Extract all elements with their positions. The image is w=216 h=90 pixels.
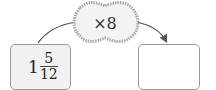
operator-label: × 8 — [72, 4, 138, 42]
fraction: 5 12 — [40, 51, 58, 82]
denominator: 12 — [40, 67, 58, 82]
operator-value: 8 — [107, 14, 117, 33]
answer-box[interactable] — [138, 44, 200, 90]
arrow-out — [136, 22, 166, 41]
mixed-number: 1 5 12 — [28, 51, 58, 82]
arc-in — [38, 22, 76, 43]
numerator: 5 — [43, 51, 54, 66]
input-box: 1 5 12 — [10, 44, 71, 90]
times-symbol: × — [93, 14, 106, 33]
whole-part: 1 — [28, 57, 39, 77]
